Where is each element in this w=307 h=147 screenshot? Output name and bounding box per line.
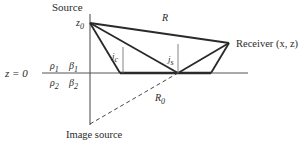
jc-label: jc xyxy=(112,52,118,64)
beta1-label: β1 xyxy=(69,61,78,74)
R0-label: R0 xyxy=(155,93,165,106)
reflected-path-down xyxy=(90,23,178,73)
direct-path-R xyxy=(90,23,229,43)
reflected-path-up xyxy=(178,43,229,73)
rho2-label: ρ2 xyxy=(50,78,59,91)
image-source-label: Image source xyxy=(66,130,122,141)
receiver-label: Receiver (x, z) xyxy=(236,39,298,50)
beta2-label: β2 xyxy=(69,78,78,91)
z0-label: z0 xyxy=(76,18,84,31)
rho1-label: ρ1 xyxy=(50,61,59,74)
source-label: Source xyxy=(52,2,83,13)
R-label: R xyxy=(162,13,168,23)
js-label: js xyxy=(168,55,174,67)
diagram-canvas xyxy=(0,0,307,147)
interface-label: z = 0 xyxy=(5,68,28,79)
